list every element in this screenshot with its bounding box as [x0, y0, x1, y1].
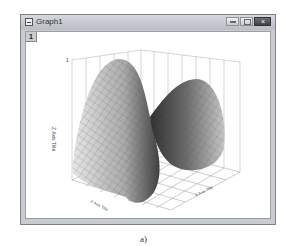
maximize-button[interactable] [240, 17, 253, 26]
close-button[interactable]: × [254, 17, 271, 26]
maximize-icon [244, 19, 251, 25]
graph-window: Graph1 × 1 [20, 14, 276, 225]
minimize-icon [230, 21, 236, 23]
surface-plot: 1 Z Axis Title X Axis Title Y Axis Title [26, 32, 272, 221]
window-title: Graph1 [36, 17, 63, 27]
window-controls: × [226, 17, 271, 27]
minimize-button[interactable] [226, 17, 239, 26]
z-tick-1: 1 [66, 57, 69, 63]
figure-caption: a) [140, 234, 147, 244]
graph-canvas[interactable]: 1 [25, 31, 271, 219]
graph-window-icon[interactable] [25, 18, 33, 26]
z-axis-label: Z Axis Title [51, 127, 57, 151]
close-icon: × [260, 19, 266, 25]
x-axis-label: X Axis Title [90, 198, 110, 212]
title-bar[interactable]: Graph1 × [21, 15, 275, 30]
